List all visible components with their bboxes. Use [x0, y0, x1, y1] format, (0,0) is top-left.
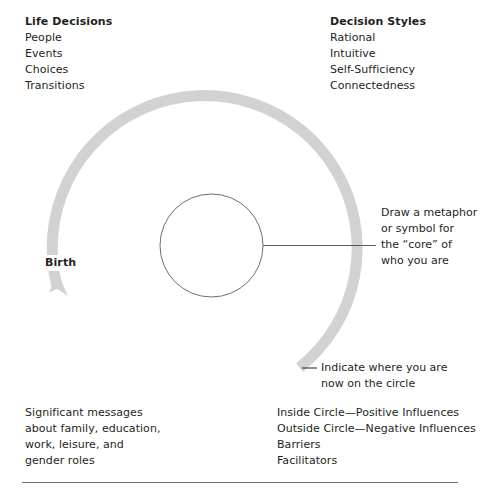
- life-decisions-item-people: People: [25, 30, 112, 46]
- core-circle: [160, 194, 263, 297]
- core-callout-line-2: or symbol for: [381, 221, 481, 237]
- significant-messages-line-4: gender roles: [25, 453, 160, 469]
- life-circle-diagram: Life Decisions People Events Choices Tra…: [0, 0, 481, 492]
- decision-styles-item-rational: Rational: [330, 30, 426, 46]
- influences-group: Inside Circle—Positive Influences Outsid…: [277, 405, 476, 469]
- significant-messages-group: Significant messages about family, educa…: [25, 405, 160, 469]
- decision-styles-group: Decision Styles Rational Intuitive Self-…: [330, 14, 426, 94]
- life-decisions-item-events: Events: [25, 46, 112, 62]
- core-callout: Draw a metaphor or symbol for the “core”…: [381, 205, 481, 269]
- core-callout-line-4: who you are: [381, 253, 481, 269]
- life-cycle-ring-arc: [52, 96, 357, 368]
- bottom-divider: [22, 482, 458, 483]
- significant-messages-line-1: Significant messages: [25, 405, 160, 421]
- decision-styles-item-intuitive: Intuitive: [330, 46, 426, 62]
- decision-styles-item-connectedness: Connectedness: [330, 78, 426, 94]
- significant-messages-line-3: work, leisure, and: [25, 437, 160, 453]
- life-decisions-group: Life Decisions People Events Choices Tra…: [25, 14, 112, 94]
- life-decisions-heading: Life Decisions: [25, 14, 112, 30]
- position-callout-line-2: now on the circle: [321, 376, 481, 392]
- decision-styles-heading: Decision Styles: [330, 14, 426, 30]
- influences-inside-circle: Inside Circle—Positive Influences: [277, 405, 476, 421]
- life-decisions-item-choices: Choices: [25, 62, 112, 78]
- birth-label: Birth: [42, 255, 79, 271]
- position-callout: Indicate where you are now on the circle: [321, 360, 481, 392]
- influences-barriers: Barriers: [277, 437, 476, 453]
- core-callout-line-1: Draw a metaphor: [381, 205, 481, 221]
- decision-styles-item-self-sufficiency: Self-Sufficiency: [330, 62, 426, 78]
- significant-messages-line-2: about family, education,: [25, 421, 160, 437]
- influences-outside-circle: Outside Circle—Negative Influences: [277, 421, 476, 437]
- core-callout-line-3: the “core” of: [381, 237, 481, 253]
- influences-facilitators: Facilitators: [277, 453, 476, 469]
- position-callout-line-1: Indicate where you are: [321, 360, 481, 376]
- life-decisions-item-transitions: Transitions: [25, 78, 112, 94]
